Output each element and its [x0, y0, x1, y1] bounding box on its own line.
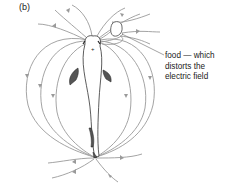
panel-label: (b) — [19, 2, 30, 12]
food-annotation: food — which distorts the electric field — [165, 51, 229, 83]
annotation-line-3: electric field — [165, 72, 229, 83]
head-positive-sign: + — [91, 46, 95, 52]
left-pectoral-fin — [69, 68, 78, 85]
right-pectoral-fin — [103, 70, 111, 82]
annotation-line-2: distorts the — [165, 62, 229, 73]
electric-fish: + — [69, 36, 111, 158]
annotation-leader-line — [122, 34, 164, 55]
annotation-line-1: food — which — [165, 51, 229, 62]
food-object — [111, 22, 122, 37]
electric-field-diagram: + — [0, 0, 229, 186]
